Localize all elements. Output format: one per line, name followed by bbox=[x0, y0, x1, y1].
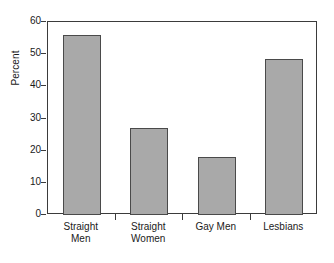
bar-chart-figure: Percent 0102030405060 Straight MenStraig… bbox=[0, 0, 334, 263]
bar bbox=[198, 157, 236, 215]
x-axis-tick-mark bbox=[115, 214, 116, 220]
y-axis-tick-label: 20 bbox=[19, 145, 41, 155]
y-axis-tick-mark bbox=[41, 118, 46, 119]
y-axis-tick-label: 40 bbox=[19, 80, 41, 90]
y-axis-tick-label: 60 bbox=[19, 16, 41, 26]
x-axis-category-label: Gay Men bbox=[182, 221, 250, 233]
y-axis-tick-label: 10 bbox=[19, 177, 41, 187]
bar bbox=[265, 59, 303, 215]
x-axis-tick-mark bbox=[182, 214, 183, 220]
x-axis-category-label: Straight Men bbox=[47, 221, 115, 245]
x-axis-tick-mark bbox=[250, 214, 251, 220]
y-axis-tick-labels: 0102030405060 bbox=[17, 21, 41, 214]
x-axis-category-label: Straight Women bbox=[115, 221, 183, 245]
y-axis-tick-label: 50 bbox=[19, 48, 41, 58]
y-axis-tick-mark bbox=[41, 182, 46, 183]
y-axis-tick-label: 0 bbox=[19, 209, 41, 219]
bar bbox=[63, 35, 101, 215]
y-axis-tick-mark bbox=[41, 85, 46, 86]
y-axis-tick-mark bbox=[41, 21, 46, 22]
plot-area bbox=[47, 21, 317, 214]
y-axis-tick-mark bbox=[41, 150, 46, 151]
x-axis-category-label: Lesbians bbox=[250, 221, 318, 233]
y-axis-tick-label: 30 bbox=[19, 113, 41, 123]
y-axis-tick-mark bbox=[41, 53, 46, 54]
bar bbox=[130, 128, 168, 215]
y-axis-tick-mark bbox=[41, 214, 46, 215]
